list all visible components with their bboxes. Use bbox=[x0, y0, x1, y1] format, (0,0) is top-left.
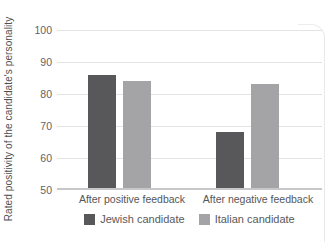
bar-italian-positive bbox=[123, 81, 151, 188]
bar-jewish-positive bbox=[88, 75, 116, 188]
x-axis-line bbox=[57, 188, 322, 190]
legend-swatch-jewish-icon bbox=[84, 214, 95, 225]
gridline-100 bbox=[57, 30, 322, 31]
legend-swatch-italian-icon bbox=[199, 214, 210, 225]
y-axis-tick-labels: 5060708090100 bbox=[16, 30, 52, 190]
x-category-label-negative: After negative feedback bbox=[203, 193, 313, 205]
y-tick-90: 90 bbox=[16, 56, 52, 68]
bar-jewish-negative bbox=[216, 132, 244, 188]
gridline-90 bbox=[57, 62, 322, 63]
bar-chart-figure: Rated positivity of the candidate's pers… bbox=[0, 0, 330, 242]
legend-item-jewish: Jewish candidate bbox=[84, 213, 184, 225]
page-edge-corner bbox=[298, 24, 325, 51]
legend-item-italian: Italian candidate bbox=[199, 213, 295, 225]
plot-area bbox=[57, 30, 322, 190]
y-tick-70: 70 bbox=[16, 120, 52, 132]
y-tick-100: 100 bbox=[16, 24, 52, 36]
y-tick-60: 60 bbox=[16, 152, 52, 164]
legend-label-jewish: Jewish candidate bbox=[100, 213, 184, 225]
y-axis-title: Rated positivity of the candidate's pers… bbox=[3, 13, 17, 225]
y-tick-80: 80 bbox=[16, 88, 52, 100]
page-edge-line bbox=[324, 48, 325, 242]
x-category-label-positive: After positive feedback bbox=[79, 193, 185, 205]
legend-label-italian: Italian candidate bbox=[215, 213, 295, 225]
bar-italian-negative bbox=[251, 84, 279, 188]
y-tick-50: 50 bbox=[16, 184, 52, 196]
legend: Jewish candidate Italian candidate bbox=[57, 213, 322, 225]
